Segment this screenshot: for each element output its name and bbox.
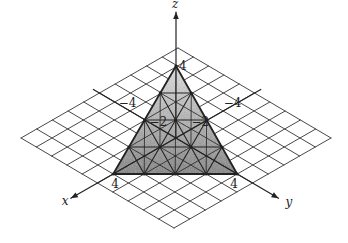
z-axis-label: z [171, 0, 179, 11]
y-axis-arrowhead [271, 192, 278, 198]
lattice-point [190, 91, 193, 94]
tick-label-x: −2 [191, 115, 209, 129]
tick-label-y: −4 [119, 96, 137, 110]
lattice-point [143, 172, 146, 175]
plane-diagram: 4−4−2−4−244 x y z [0, 0, 348, 243]
z-axis-arrowhead [173, 12, 179, 19]
x-axis-arrowhead [71, 192, 78, 198]
tick-label-x: −4 [224, 96, 242, 110]
y-axis-label: y [285, 195, 293, 209]
tick-label-x: 4 [111, 177, 119, 191]
lattice-point [174, 118, 177, 121]
x-axis-label: x [62, 194, 69, 208]
lattice-point [205, 172, 208, 175]
lattice-point [220, 145, 223, 148]
tick-label-y: 4 [230, 177, 238, 191]
tick-label-y: −2 [149, 115, 167, 129]
lattice-point [159, 91, 162, 94]
tick-label-z: 4 [179, 59, 187, 73]
lattice-point [127, 145, 130, 148]
lattice-point [174, 172, 177, 175]
